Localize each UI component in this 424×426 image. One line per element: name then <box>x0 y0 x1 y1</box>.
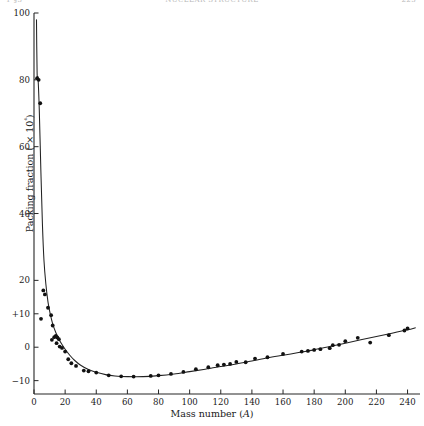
data-point <box>94 371 98 375</box>
data-point <box>328 346 332 350</box>
xtick-group <box>34 390 408 395</box>
data-point <box>66 357 70 361</box>
data-point <box>49 313 53 317</box>
data-point <box>234 360 238 364</box>
data-point <box>281 352 285 356</box>
x-axis-tick-label: 0 <box>31 397 36 407</box>
data-point <box>318 347 322 351</box>
data-point <box>368 341 372 345</box>
data-point <box>51 324 55 328</box>
data-point <box>119 374 123 378</box>
x-axis-tick-label: 200 <box>337 397 353 407</box>
data-point <box>266 355 270 359</box>
x-axis-tick-label: 100 <box>181 397 197 407</box>
x-axis-tick-label: 160 <box>275 397 291 407</box>
y-axis-tick-label: −10 <box>12 376 30 386</box>
y-axis-title: Packing fraction ( × 10⁴) <box>24 88 35 258</box>
x-axis-tick-label: 180 <box>306 397 322 407</box>
y-axis-tick-label: +10 <box>12 309 30 319</box>
data-point <box>169 372 173 376</box>
data-point <box>406 327 410 331</box>
packing-fraction-figure: 020406080100120140160180200220240 −100+1… <box>0 0 424 426</box>
plot-canvas: 020406080100120140160180200220240 −100+1… <box>0 0 424 426</box>
data-point <box>206 365 210 369</box>
fitted-curve <box>36 20 415 377</box>
data-point <box>87 369 91 373</box>
data-point <box>107 373 111 377</box>
data-point <box>253 357 257 361</box>
data-point <box>37 78 41 82</box>
data-point <box>69 361 73 365</box>
axes-group <box>34 13 420 394</box>
xticklabel-group: 020406080100120140160180200220240 <box>31 397 415 407</box>
y-axis-tick-label: 80 <box>19 75 30 85</box>
curve-group <box>36 20 415 377</box>
y-axis-tick-label: 100 <box>14 8 30 18</box>
data-point <box>39 317 43 321</box>
ytick-group <box>34 13 39 381</box>
x-axis-tick-label: 220 <box>368 397 384 407</box>
datapoint-group <box>35 76 409 378</box>
data-point <box>228 362 232 366</box>
data-point <box>356 336 360 340</box>
data-point <box>60 346 64 350</box>
plot-area: 020406080100120140160180200220240 −100+1… <box>0 0 424 426</box>
data-point <box>43 293 47 297</box>
x-axis-tick-label: 60 <box>122 397 133 407</box>
data-point <box>157 373 161 377</box>
data-point <box>74 364 78 368</box>
x-axis-tick-label: 40 <box>91 397 102 407</box>
data-point <box>403 329 407 333</box>
data-point <box>46 306 50 310</box>
data-point <box>300 350 304 354</box>
data-point <box>216 363 220 367</box>
data-point <box>57 337 61 341</box>
y-axis-tick-label: 20 <box>19 275 30 285</box>
x-axis-tick-label: 240 <box>399 397 415 407</box>
data-point <box>50 338 54 342</box>
data-point <box>132 375 136 379</box>
data-point <box>149 374 153 378</box>
x-axis-tick-label: 120 <box>213 397 229 407</box>
data-point <box>82 369 86 373</box>
y-axis-tick-label: 0 <box>25 342 30 352</box>
data-point <box>331 343 335 347</box>
data-point <box>343 339 347 343</box>
data-point <box>41 288 45 292</box>
data-point <box>38 101 42 105</box>
data-point <box>306 349 310 353</box>
x-axis-tick-label: 140 <box>244 397 260 407</box>
x-axis-title: Mass number (A) <box>0 408 424 419</box>
data-point <box>55 341 59 345</box>
data-point <box>63 350 67 354</box>
x-axis-tick-label: 20 <box>60 397 71 407</box>
data-point <box>182 370 186 374</box>
data-point <box>337 343 341 347</box>
x-axis-tick-label: 80 <box>153 397 164 407</box>
data-point <box>222 363 226 367</box>
data-point <box>244 360 248 364</box>
data-point <box>194 367 198 371</box>
data-point <box>387 333 391 337</box>
data-point <box>312 348 316 352</box>
